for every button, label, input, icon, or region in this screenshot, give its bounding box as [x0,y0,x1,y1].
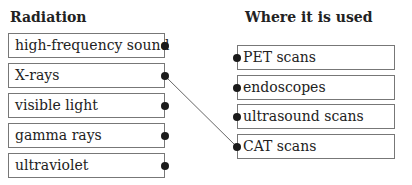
connection-xrays-cat-scans [165,76,237,147]
connector-dot-visible-light[interactable] [161,102,169,110]
usage-item-cat-scans[interactable]: CAT scans [237,134,395,159]
connector-dot-endoscopes[interactable] [233,84,241,92]
radiation-item-ultraviolet[interactable]: ultraviolet [8,153,165,178]
connector-dot-cat-scans[interactable] [233,143,241,151]
connector-dot-gamma-rays[interactable] [161,132,169,140]
radiation-item-visible-light[interactable]: visible light [8,93,165,118]
radiation-item-x-rays[interactable]: X-rays [8,63,165,88]
radiation-heading: Radiation [10,9,87,25]
usage-item-pet-scans[interactable]: PET scans [237,45,395,70]
usage-item-ultrasound-scans[interactable]: ultrasound scans [237,104,395,129]
usage-item-endoscopes[interactable]: endoscopes [237,75,395,100]
connector-dot-high-frequency-sound[interactable] [161,42,169,50]
connector-dot-ultrasound-scans[interactable] [233,113,241,121]
radiation-item-gamma-rays[interactable]: gamma rays [8,123,165,148]
radiation-item-high-frequency-sound[interactable]: high-frequency sound [8,33,165,58]
connector-dot-x-rays[interactable] [161,72,169,80]
where-used-heading: Where it is used [245,9,372,25]
connector-dot-pet-scans[interactable] [233,54,241,62]
connector-dot-ultraviolet[interactable] [161,162,169,170]
